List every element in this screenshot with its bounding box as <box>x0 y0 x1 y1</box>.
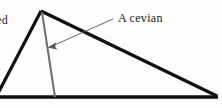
truncated-left-label: ed <box>0 14 8 26</box>
triangle-diagram-svg <box>0 0 222 108</box>
cevian-label: A cevian <box>118 12 163 24</box>
cevian-segment <box>42 12 55 97</box>
cevian-arrowhead-icon <box>48 43 58 50</box>
cevian-figure: ed A cevian <box>0 0 222 108</box>
